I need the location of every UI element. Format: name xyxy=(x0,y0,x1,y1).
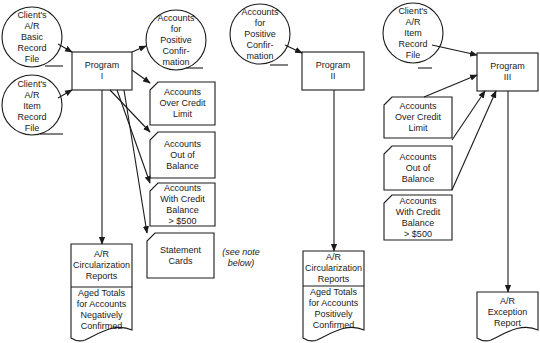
doc-positive-header: A/R Circularization Reports xyxy=(303,251,364,286)
program-2: Program II xyxy=(302,52,364,90)
card-p3-accounts-over-credit-limit: Accounts Over Credit Limit xyxy=(384,97,452,138)
file-accounts-positive-confirmation-out: Accounts for Positive Confir- mation xyxy=(146,11,206,69)
card-accounts-credit-balance: Accounts With Credit Balance > $500 xyxy=(150,183,215,226)
program-1: Program I xyxy=(72,52,132,90)
card-statement-cards: Statement Cards xyxy=(147,233,214,278)
card-accounts-out-of-balance: Accounts Out of Balance xyxy=(150,132,215,178)
doc-circularization-positive: A/R Circularization Reports Aged Totals … xyxy=(303,251,364,339)
card-p3-accounts-out-of-balance: Accounts Out of Balance xyxy=(384,146,452,190)
card-p3-accounts-credit-balance: Accounts With Credit Balance > $500 xyxy=(384,195,452,240)
program-3: Program III xyxy=(477,53,538,91)
doc-negative-header: A/R Circularization Reports xyxy=(71,244,132,287)
doc-exception-report: A/R Exception Report xyxy=(477,292,538,332)
card-accounts-over-credit-limit: Accounts Over Credit Limit xyxy=(150,82,215,125)
see-note-annotation: (see note below) xyxy=(218,247,264,269)
file-client-ar-item-record: Client's A/R Item Record File xyxy=(2,77,62,135)
doc-circularization-negative: A/R Circularization Reports Aged Totals … xyxy=(71,244,132,339)
doc-positive-body: Aged Totals for Accounts Positively Conf… xyxy=(303,286,364,332)
doc-negative-body: Aged Totals for Accounts Negatively Conf… xyxy=(71,287,132,333)
file-accounts-positive-confirmation-in: Accounts for Positive Confir- mation xyxy=(230,5,290,63)
file-client-ar-basic-record: Client's A/R Basic Record File xyxy=(2,8,62,66)
file-client-ar-item-record-p3: Client's A/R Item Record File xyxy=(383,4,443,62)
